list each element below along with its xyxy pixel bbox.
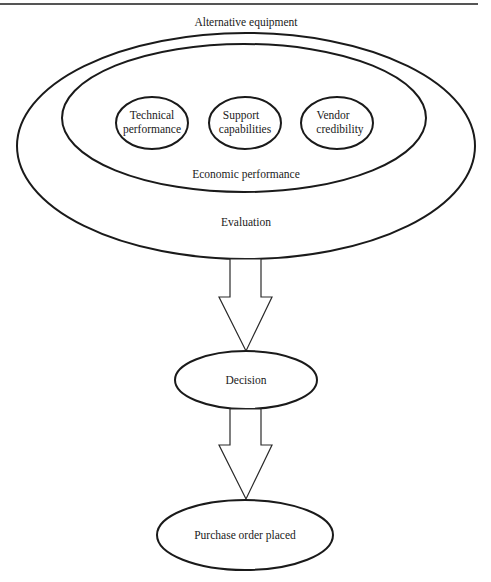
arrow-down-icon [219, 259, 272, 351]
criterion-technical-performance: Technical performance [116, 97, 188, 149]
purchase-order-label: Purchase order placed [194, 529, 296, 542]
criterion-vendor-credibility: Vendor credibility [301, 97, 373, 149]
decision-label: Decision [226, 374, 267, 386]
criterion-label-line1: Vendor [316, 109, 349, 121]
economic-performance-label: Economic performance [192, 168, 300, 181]
criterion-label-line2: credibility [316, 123, 364, 136]
criterion-label-line1: Support [223, 109, 260, 122]
title-alternative-equipment: Alternative equipment [194, 16, 298, 29]
evaluation-flow-diagram: Alternative equipment Technical performa… [0, 0, 491, 582]
evaluation-label: Evaluation [221, 216, 271, 228]
arrow-down-icon [219, 409, 272, 499]
criterion-label-line1: Technical [130, 109, 175, 121]
criterion-support-capabilities: Support capabilities [209, 97, 281, 149]
criterion-label-line2: capabilities [219, 123, 272, 136]
purchase-order-node: Purchase order placed [157, 500, 333, 570]
criterion-label-line2: performance [123, 123, 181, 136]
decision-node: Decision [175, 351, 317, 409]
